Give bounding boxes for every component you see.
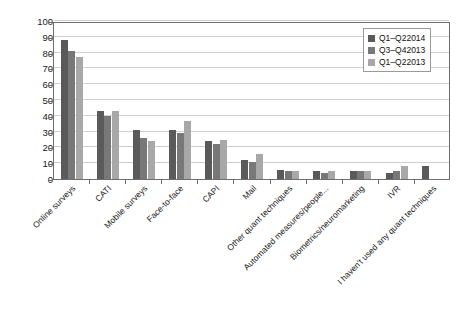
bar-group [169, 23, 191, 179]
bar [292, 171, 299, 179]
bar-group [133, 23, 155, 179]
bar [205, 141, 212, 179]
bar [169, 130, 176, 179]
bar [112, 111, 119, 179]
bar-group [313, 23, 335, 179]
bar [220, 140, 227, 180]
x-tick-mark [378, 180, 379, 184]
bar [285, 171, 292, 179]
legend-swatch [368, 59, 375, 66]
bar [249, 162, 256, 179]
legend-swatch [368, 35, 375, 42]
bar [148, 141, 155, 179]
bar [97, 111, 104, 179]
bar [256, 154, 263, 179]
bar [241, 160, 248, 179]
bar [321, 173, 328, 179]
bar [386, 173, 393, 179]
bar [422, 166, 429, 179]
legend-label: Q1–Q22013 [379, 57, 425, 67]
x-tick-mark [197, 180, 198, 184]
bar-group [277, 23, 299, 179]
bar [61, 40, 68, 179]
bar [313, 171, 320, 179]
bar [68, 51, 75, 179]
bar [393, 171, 400, 179]
x-tick-mark [414, 180, 415, 184]
bar-group [61, 23, 83, 179]
bar [76, 57, 83, 179]
legend-swatch [368, 47, 375, 54]
bar [140, 138, 147, 179]
x-tick-mark [161, 180, 162, 184]
x-tick-mark [125, 180, 126, 184]
x-tick-mark [342, 180, 343, 184]
bar [364, 171, 371, 179]
bar [277, 170, 284, 179]
x-tick-mark [233, 180, 234, 184]
bar [184, 121, 191, 179]
bar [133, 130, 140, 179]
bar [177, 133, 184, 179]
bar [104, 116, 111, 179]
bar [401, 166, 408, 179]
bar-group [97, 23, 119, 179]
y-tick-mark [49, 180, 53, 181]
legend-item: Q3–Q42013 [368, 44, 425, 56]
legend-item: Q1–Q22014 [368, 32, 425, 44]
bar [213, 144, 220, 179]
bar [328, 171, 335, 179]
bar-group [241, 23, 263, 179]
bar [350, 171, 357, 179]
bar [357, 171, 364, 179]
bar-chart: 0102030405060708090100 Online surveysCAT… [0, 0, 462, 328]
chart-legend: Q1–Q22014Q3–Q42013Q1–Q22013 [363, 28, 431, 72]
bar-group [205, 23, 227, 179]
x-tick-mark [89, 180, 90, 184]
x-tick-mark [306, 180, 307, 184]
x-tick-mark [270, 180, 271, 184]
legend-label: Q1–Q22014 [379, 33, 425, 43]
gridline [54, 20, 449, 21]
legend-label: Q3–Q42013 [379, 45, 425, 55]
legend-item: Q1–Q22013 [368, 56, 425, 68]
